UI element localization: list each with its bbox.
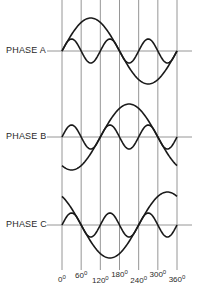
tick-label-120: 1200 [92, 276, 109, 285]
tick-label-60: 600 [75, 271, 87, 280]
phase-b-label: PHASE B [6, 131, 46, 141]
tick-label-0: 00 [58, 275, 66, 284]
phase-a-label: PHASE A [6, 45, 46, 55]
tick-label-300: 3000 [149, 270, 166, 279]
tick-label-240: 2400 [130, 276, 147, 285]
tick-label-360: 3600 [169, 275, 186, 284]
phase-c-label: PHASE C [6, 219, 47, 229]
tick-label-180: 1800 [111, 270, 128, 279]
